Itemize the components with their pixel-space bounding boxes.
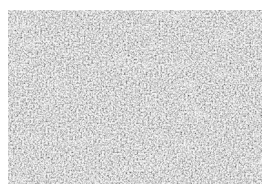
micrograph-image (8, 10, 262, 184)
tissue-texture (8, 10, 262, 184)
